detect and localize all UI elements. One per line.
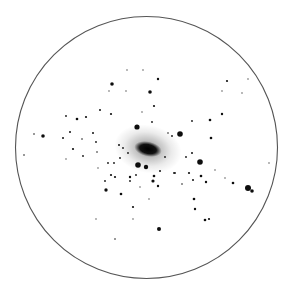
star xyxy=(167,132,169,134)
star xyxy=(144,165,148,169)
star xyxy=(96,151,98,153)
faint-star xyxy=(141,111,143,113)
star xyxy=(85,116,87,118)
faint-star xyxy=(148,198,150,200)
star xyxy=(157,78,159,80)
faint-star xyxy=(126,69,128,71)
star xyxy=(205,181,207,183)
star xyxy=(23,154,25,156)
star xyxy=(185,156,187,158)
star xyxy=(191,152,193,154)
star xyxy=(157,185,159,187)
faint-star xyxy=(97,167,99,169)
galaxy-core xyxy=(110,118,186,179)
star xyxy=(110,113,112,115)
faint-star xyxy=(139,186,141,188)
star xyxy=(99,109,101,111)
star xyxy=(62,137,64,139)
faint-star xyxy=(142,69,144,71)
star xyxy=(118,144,120,146)
star xyxy=(110,82,114,86)
star xyxy=(197,159,203,165)
star xyxy=(221,113,223,115)
faint-star xyxy=(125,90,127,92)
star xyxy=(232,182,235,185)
star xyxy=(151,179,154,182)
star xyxy=(95,141,97,143)
star xyxy=(181,183,183,185)
star xyxy=(250,189,254,193)
star xyxy=(153,105,155,107)
star xyxy=(119,157,121,159)
star xyxy=(127,152,129,154)
star xyxy=(134,124,139,129)
faint-star xyxy=(95,218,97,220)
star xyxy=(114,176,116,178)
star xyxy=(41,134,45,138)
star xyxy=(210,137,213,140)
faint-star xyxy=(132,218,134,220)
faint-star xyxy=(65,158,67,160)
star xyxy=(72,148,74,150)
star xyxy=(114,238,116,240)
star xyxy=(33,133,35,135)
star xyxy=(82,155,84,157)
faint-star xyxy=(214,169,216,171)
star xyxy=(245,185,251,191)
star xyxy=(76,118,79,121)
star xyxy=(135,174,137,176)
star xyxy=(194,208,196,210)
star xyxy=(92,132,94,134)
faint-star xyxy=(268,162,270,164)
star xyxy=(153,175,156,178)
star-field-image xyxy=(0,0,289,293)
star xyxy=(65,115,67,117)
star xyxy=(204,219,207,222)
star xyxy=(171,135,173,137)
star xyxy=(151,121,153,123)
star xyxy=(122,147,124,149)
star xyxy=(209,119,212,122)
star xyxy=(110,174,112,176)
star xyxy=(164,156,166,158)
star xyxy=(192,179,194,181)
star xyxy=(120,193,123,196)
star xyxy=(188,172,190,174)
star xyxy=(104,188,107,191)
star xyxy=(113,162,115,164)
star xyxy=(129,176,131,178)
star xyxy=(208,218,210,220)
star xyxy=(177,131,183,137)
star xyxy=(226,80,228,82)
faint-star xyxy=(247,78,249,80)
star xyxy=(174,172,176,174)
faint-star xyxy=(221,90,223,92)
star xyxy=(191,120,193,122)
star xyxy=(81,138,83,140)
star xyxy=(135,162,141,168)
star xyxy=(159,170,161,172)
star xyxy=(69,131,71,133)
star xyxy=(107,162,109,164)
star xyxy=(200,175,203,178)
faint-star xyxy=(108,90,110,92)
star xyxy=(193,198,196,201)
star xyxy=(132,206,134,208)
faint-star xyxy=(224,177,226,179)
faint-star xyxy=(241,92,243,94)
star xyxy=(129,180,131,182)
star xyxy=(148,90,152,94)
star xyxy=(104,180,106,182)
star xyxy=(157,227,161,231)
